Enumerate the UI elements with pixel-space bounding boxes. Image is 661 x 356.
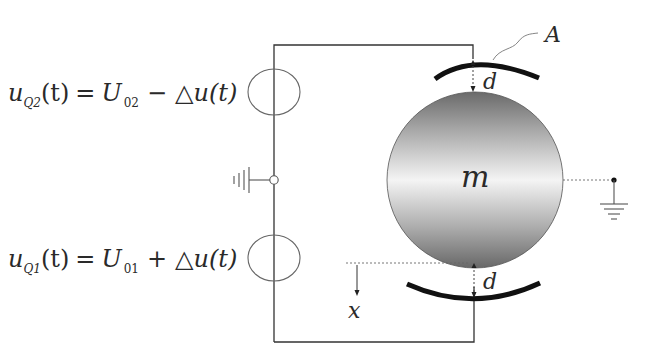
- equation-lower: uQ1(t)=U01+△u(t): [8, 245, 237, 276]
- gap-top-arrow-down-icon: [471, 86, 476, 92]
- label-gap-top: d: [483, 69, 497, 94]
- label-mass: m: [461, 159, 489, 194]
- electrostatic-diagram: uQ2(t)=U02−△u(t) uQ1(t)=U01+△u(t) A d m …: [0, 0, 661, 356]
- right-ground-icon: [600, 180, 628, 219]
- x-arrow-head-icon: [355, 290, 360, 296]
- left-ground-icon: [234, 167, 270, 193]
- junction-node: [270, 176, 278, 184]
- electrode-leader: [493, 33, 538, 60]
- label-electrode-a: A: [543, 22, 561, 47]
- label-displacement-x: x: [348, 298, 361, 323]
- label-gap-bottom: d: [483, 269, 497, 294]
- equation-upper: uQ2(t)=U02−△u(t): [8, 79, 237, 110]
